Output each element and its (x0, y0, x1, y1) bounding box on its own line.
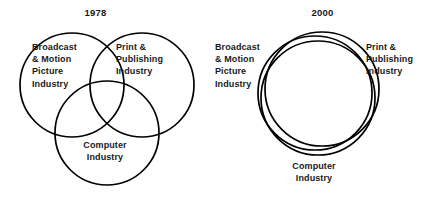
label-print-publishing-2000: Print & Publishing Industry (366, 41, 413, 78)
label-print-publishing-1978: Print & Publishing Industry (116, 41, 163, 78)
circle-computer-2000 (261, 41, 375, 155)
label-broadcast-motion-picture-1978: Broadcast & Motion Picture Industry (32, 41, 77, 90)
circle-computer-1978 (55, 81, 159, 185)
circle-print-publishing-2000 (265, 32, 379, 146)
panel-1978: 1978 Broadcast & Motion Picture Industry… (0, 0, 215, 200)
circle-broadcast-motion-picture-2000 (258, 36, 372, 150)
label-computer-1978: Computer Industry (62, 139, 148, 163)
venn-diagram-1978 (0, 0, 215, 200)
label-computer-2000: Computer Industry (259, 160, 369, 184)
label-broadcast-motion-picture-2000: Broadcast & Motion Picture Industry (215, 41, 260, 90)
convergence-venn-figure: 1978 Broadcast & Motion Picture Industry… (0, 0, 446, 200)
panel-2000: 2000 Broadcast & Motion Picture Industry… (215, 0, 446, 200)
